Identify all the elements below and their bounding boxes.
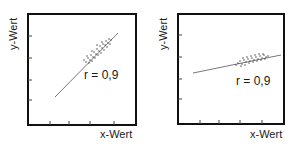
- plot-frame: [178, 14, 284, 124]
- regression-line: [193, 55, 281, 73]
- scatter-panel-left: y-Wert x-Wert r = 0,9: [0, 0, 146, 147]
- correlation-annotation: r = 0,9: [236, 74, 270, 88]
- correlation-annotation: r = 0,9: [84, 68, 118, 82]
- x-axis-label: x-Wert: [250, 128, 282, 140]
- y-axis-label: y-Wert: [7, 18, 19, 50]
- x-axis-label: x-Wert: [100, 128, 132, 140]
- data-points: [83, 38, 111, 63]
- data-points: [235, 53, 268, 66]
- y-axis-label: y-Wert: [157, 18, 169, 50]
- scatter-panel-right: y-Wert x-Wert r = 0,9: [146, 0, 293, 147]
- scatter-plot-left: [0, 0, 146, 147]
